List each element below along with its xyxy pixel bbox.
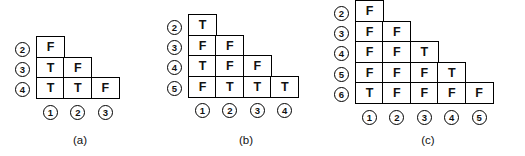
row-index-badge: 2 bbox=[334, 6, 349, 21]
row-index-badge: 3 bbox=[167, 40, 182, 55]
truth-table-triangles-figure: FTFTTF234123(a)TFFTFFFTTT23451234(b)FFFF… bbox=[0, 0, 525, 156]
truth-cell: F bbox=[355, 41, 384, 63]
column-index-badge: 2 bbox=[389, 110, 404, 125]
column-index-badge: 1 bbox=[362, 110, 377, 125]
truth-cell: F bbox=[188, 76, 217, 98]
panel-caption-c: (c) bbox=[416, 134, 440, 146]
truth-cell: T bbox=[63, 77, 92, 99]
column-index-badge: 1 bbox=[195, 103, 210, 118]
truth-cell: T bbox=[410, 41, 439, 63]
column-index-badge: 5 bbox=[472, 110, 487, 125]
truth-cell: F bbox=[437, 82, 466, 104]
row-index-badge: 3 bbox=[334, 26, 349, 41]
row-index-badge: 5 bbox=[334, 67, 349, 82]
truth-cell: F bbox=[382, 82, 411, 104]
truth-cell: F bbox=[410, 62, 439, 84]
row-index-badge: 5 bbox=[167, 81, 182, 96]
truth-cell: F bbox=[91, 77, 120, 99]
row-index-badge: 2 bbox=[15, 42, 30, 57]
truth-cell: T bbox=[215, 76, 244, 98]
column-index-badge: 2 bbox=[222, 103, 237, 118]
row-index-badge: 4 bbox=[167, 60, 182, 75]
panel-caption-a: (a) bbox=[68, 134, 92, 146]
truth-cell: T bbox=[355, 82, 384, 104]
table-row: TTF bbox=[36, 79, 120, 101]
row-index-badge: 4 bbox=[15, 82, 30, 97]
column-index-badge: 4 bbox=[277, 103, 292, 118]
column-index-badge: 4 bbox=[444, 110, 459, 125]
truth-cell: T bbox=[36, 77, 65, 99]
table-row: FTTT bbox=[188, 77, 299, 99]
truth-cell: F bbox=[36, 36, 65, 58]
truth-cell: F bbox=[243, 55, 272, 77]
row-index-badge: 4 bbox=[334, 46, 349, 61]
truth-cell: T bbox=[36, 57, 65, 79]
truth-cell: F bbox=[410, 82, 439, 104]
row-index-badge: 3 bbox=[15, 62, 30, 77]
panel-caption-b: (b) bbox=[234, 134, 258, 146]
column-index-badge: 2 bbox=[70, 105, 85, 120]
row-index-badge: 2 bbox=[167, 20, 182, 35]
truth-cell: T bbox=[437, 62, 466, 84]
truth-cell: T bbox=[188, 14, 217, 36]
truth-cell: F bbox=[188, 35, 217, 57]
truth-cell: F bbox=[215, 55, 244, 77]
row-index-badge: 6 bbox=[334, 87, 349, 102]
truth-cell: T bbox=[270, 76, 299, 98]
truth-cell: F bbox=[355, 0, 384, 22]
table-row: TFFFF bbox=[355, 84, 494, 106]
column-index-badge: 3 bbox=[417, 110, 432, 125]
truth-cell: F bbox=[382, 62, 411, 84]
truth-cell: F bbox=[63, 57, 92, 79]
truth-cell: T bbox=[188, 55, 217, 77]
truth-cell: T bbox=[243, 76, 272, 98]
truth-cell: F bbox=[355, 21, 384, 43]
truth-cell: F bbox=[215, 35, 244, 57]
truth-cell: F bbox=[355, 62, 384, 84]
column-index-badge: 1 bbox=[43, 105, 58, 120]
column-index-badge: 3 bbox=[250, 103, 265, 118]
truth-cell: F bbox=[465, 82, 494, 104]
truth-cell: F bbox=[382, 21, 411, 43]
truth-cell: F bbox=[382, 41, 411, 63]
column-index-badge: 3 bbox=[98, 105, 113, 120]
